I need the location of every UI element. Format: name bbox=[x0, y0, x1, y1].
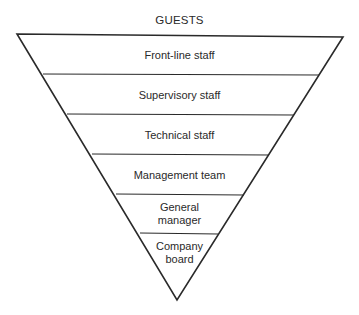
inverted-pyramid-diagram: GUESTS Front-line staff Supervisory staf… bbox=[0, 0, 359, 315]
diagram-title: GUESTS bbox=[0, 14, 359, 26]
tier-label-company-board-line1: Company bbox=[0, 240, 359, 253]
pyramid-outline bbox=[0, 0, 359, 315]
tier-label-front-line-staff: Front-line staff bbox=[0, 49, 359, 62]
tier-label-general-manager-line1: General bbox=[0, 201, 359, 214]
tier-label-management-team: Management team bbox=[0, 169, 359, 182]
tier-label-technical-staff: Technical staff bbox=[0, 129, 359, 142]
tier-label-company-board: Company board bbox=[0, 240, 359, 266]
tier-label-supervisory-staff: Supervisory staff bbox=[0, 89, 359, 102]
tier-label-company-board-line2: board bbox=[0, 253, 359, 266]
tier-label-general-manager: General manager bbox=[0, 201, 359, 227]
tier-label-general-manager-line2: manager bbox=[0, 214, 359, 227]
